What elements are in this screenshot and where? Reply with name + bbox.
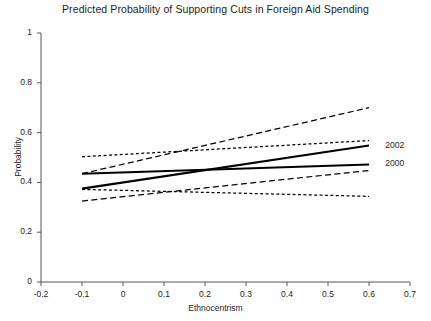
y-tick-label: 0 (2, 276, 32, 286)
y-tick-label: 0.6 (2, 127, 32, 137)
y-tick-label: 0.8 (2, 77, 32, 87)
x-tick-label: -0.1 (65, 289, 99, 299)
x-tick-label: 0.7 (393, 289, 427, 299)
x-tick-label: 0 (106, 289, 140, 299)
x-tick-label: -0.2 (24, 289, 58, 299)
ci-upper-2000 (82, 141, 369, 157)
x-tick-label: 0.6 (352, 289, 386, 299)
y-tick-label: 0.2 (2, 226, 32, 236)
series-line-2002 (82, 146, 369, 189)
y-tick-label: 0.4 (2, 176, 32, 186)
chart-figure: Predicted Probability of Supporting Cuts… (0, 0, 431, 321)
ci-upper-2002 (82, 108, 369, 174)
y-tick-label: 1 (2, 27, 32, 37)
plot-canvas (0, 0, 431, 321)
ci-lower-2002 (82, 170, 369, 201)
series-line-2000 (82, 164, 369, 173)
x-tick-label: 0.4 (270, 289, 304, 299)
x-tick-label: 0.5 (311, 289, 345, 299)
x-tick-label: 0.1 (147, 289, 181, 299)
ci-lower-2000 (82, 189, 369, 196)
series-annotation: 2002 (385, 140, 404, 150)
x-tick-label: 0.2 (188, 289, 222, 299)
series-annotation: 2000 (385, 158, 404, 168)
x-tick-label: 0.3 (229, 289, 263, 299)
